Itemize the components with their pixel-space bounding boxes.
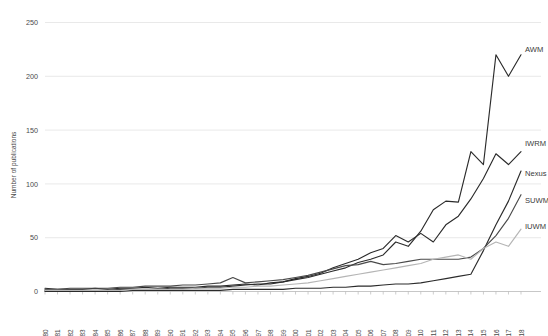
x-tick-label: 2003 <box>330 329 337 336</box>
y-axis-ticks: 050100150200250 <box>26 18 38 296</box>
x-tick-label: 1985 <box>104 329 111 336</box>
series-label-iwrm: IWRM <box>525 139 546 148</box>
x-tick-label: 1999 <box>280 329 287 336</box>
x-tick-label: 2000 <box>292 329 299 336</box>
series-end-labels: AWMIWRMNexusSUWMIUWM <box>525 45 548 231</box>
x-tick-label: 1992 <box>192 329 199 336</box>
x-tick-label: 2001 <box>305 329 312 336</box>
x-tick-label: 1983 <box>79 329 86 336</box>
x-tick-label: 2012 <box>442 329 449 336</box>
x-tick-label: 2007 <box>380 329 387 336</box>
y-tick-label: 0 <box>34 287 38 296</box>
chart-canvas: 050100150200250 198019811982198319841985… <box>0 0 548 336</box>
x-tick-label: 2005 <box>355 329 362 336</box>
x-tick-label: 2016 <box>493 329 500 336</box>
x-tick-label: 1994 <box>217 329 224 336</box>
x-tick-label: 1991 <box>179 329 186 336</box>
y-tick-label: 250 <box>26 18 38 27</box>
x-tick-label: 1996 <box>242 329 249 336</box>
series-label-iuwm: IUWM <box>525 222 546 231</box>
series-line-awm <box>45 55 521 290</box>
series-label-awm: AWM <box>525 45 543 54</box>
x-tick-label: 2008 <box>392 329 399 336</box>
x-tick-label: 1982 <box>67 329 74 336</box>
y-tick-label: 150 <box>26 126 38 135</box>
x-tick-label: 1984 <box>92 329 99 336</box>
x-tick-label: 1997 <box>255 329 262 336</box>
x-tick-label: 2014 <box>467 329 474 336</box>
x-tick-label: 2011 <box>430 329 437 336</box>
x-tick-label: 1986 <box>117 329 124 336</box>
x-tick-label: 1989 <box>154 329 161 336</box>
publications-line-chart: 050100150200250 198019811982198319841985… <box>0 0 548 336</box>
x-tick-label: 2009 <box>405 329 412 336</box>
x-tick-label: 2006 <box>367 329 374 336</box>
x-tick-label: 1981 <box>54 329 61 336</box>
series-line-iwrm <box>45 152 521 291</box>
x-tick-label: 2002 <box>317 329 324 336</box>
y-tick-label: 200 <box>26 72 38 81</box>
series-label-nexus: Nexus <box>525 169 547 178</box>
x-tick-label: 1987 <box>129 329 136 336</box>
x-tick-label: 1988 <box>142 329 149 336</box>
series-line-nexus <box>45 171 521 292</box>
x-tick-label: 2017 <box>505 329 512 336</box>
x-tick-label: 2004 <box>342 329 349 336</box>
x-tick-label: 1980 <box>42 329 49 336</box>
series-label-suwm: SUWM <box>525 196 548 205</box>
x-tick-label: 1993 <box>204 329 211 336</box>
y-tick-label: 100 <box>26 180 38 189</box>
x-tick-label: 2013 <box>455 329 462 336</box>
gridlines <box>44 23 541 292</box>
x-tick-label: 2010 <box>417 329 424 336</box>
x-tick-label: 2018 <box>518 329 525 336</box>
series-line-suwm <box>45 195 521 290</box>
y-tick-label: 50 <box>30 233 38 242</box>
x-tick-label: 2015 <box>480 329 487 336</box>
data-series-lines <box>45 55 521 292</box>
x-tick-label: 1990 <box>167 329 174 336</box>
x-axis-ticks: 1980198119821983198419851986198719881989… <box>42 292 525 336</box>
x-tick-label: 1995 <box>229 329 236 336</box>
x-tick-label: 1998 <box>267 329 274 336</box>
y-axis-title: Number of publications <box>10 131 18 198</box>
